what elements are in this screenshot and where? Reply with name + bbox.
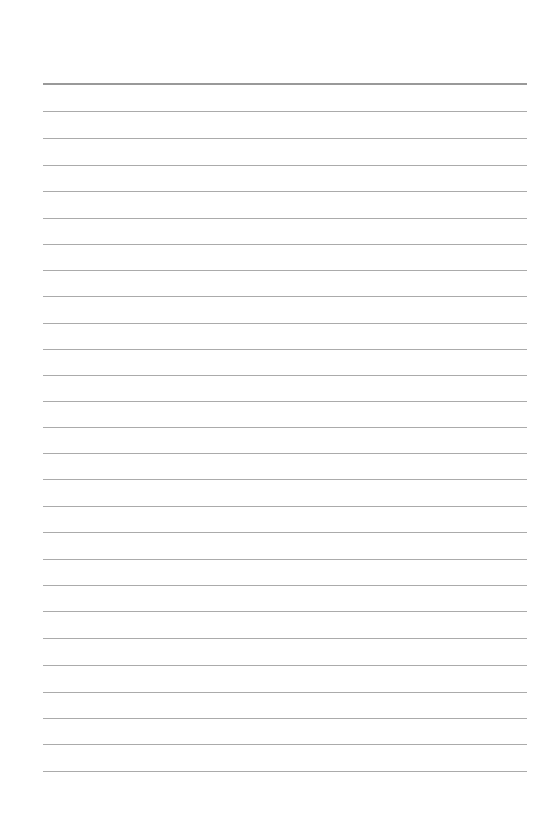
ruled-line <box>43 611 527 612</box>
ruled-line <box>43 638 527 639</box>
ruled-line <box>43 771 527 772</box>
header-rule-line <box>43 83 527 85</box>
notepaper-page <box>0 0 538 826</box>
ruled-line <box>43 165 527 166</box>
ruled-line <box>43 453 527 454</box>
ruled-line <box>43 138 527 139</box>
ruled-line <box>43 718 527 719</box>
ruled-line <box>43 191 527 192</box>
ruled-line <box>43 323 527 324</box>
ruled-line <box>43 506 527 507</box>
ruled-line <box>43 665 527 666</box>
ruled-line <box>43 349 527 350</box>
ruled-line <box>43 375 527 376</box>
ruled-line <box>43 744 527 745</box>
ruled-line <box>43 244 527 245</box>
ruled-line <box>43 218 527 219</box>
ruled-line <box>43 427 527 428</box>
ruled-line <box>43 401 527 402</box>
ruled-line <box>43 270 527 271</box>
ruled-line <box>43 585 527 586</box>
ruled-line <box>43 692 527 693</box>
ruled-line <box>43 532 527 533</box>
ruled-line <box>43 296 527 297</box>
ruled-line <box>43 559 527 560</box>
ruled-line <box>43 479 527 480</box>
ruled-line <box>43 111 527 112</box>
